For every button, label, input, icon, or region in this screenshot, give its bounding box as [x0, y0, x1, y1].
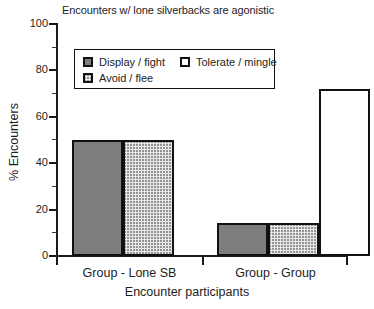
- legend-entry-display-fight: Display / fight: [83, 56, 165, 68]
- legend-entry-tolerate-mingle: Tolerate / mingle: [180, 56, 277, 68]
- legend-label-avoid-flee: Avoid / flee: [99, 72, 153, 84]
- bar-group1-avoid-flee: [123, 140, 174, 256]
- bar-chart-figure: Encounters w/ lone silverbacks are agoni…: [0, 0, 374, 309]
- y-tick-40: [49, 162, 57, 164]
- y-tick-label-0: 0: [8, 249, 48, 261]
- y-tick-label-20: 20: [8, 203, 48, 215]
- legend-swatch-display-fight-icon: [83, 57, 93, 67]
- legend-entry-avoid-flee: Avoid / flee: [83, 72, 153, 84]
- chart-title: Encounters w/ lone silverbacks are agoni…: [62, 4, 362, 16]
- legend-label-tolerate-mingle: Tolerate / mingle: [196, 56, 277, 68]
- legend-swatch-avoid-flee-icon: [83, 73, 93, 83]
- y-tick-80: [49, 69, 57, 71]
- y-tick-60: [49, 116, 57, 118]
- legend-label-display-fight: Display / fight: [99, 56, 165, 68]
- y-tick-label-80: 80: [8, 63, 48, 75]
- x-tick-middle: [202, 257, 204, 265]
- bar-group1-display-fight: [72, 140, 123, 256]
- x-tick-left: [56, 257, 58, 265]
- bar-group2-avoid-flee: [268, 223, 319, 256]
- y-tick-label-40: 40: [8, 156, 48, 168]
- y-tick-label-100: 100: [8, 17, 48, 29]
- bar-group2-display-fight: [217, 223, 268, 256]
- y-tick-100: [49, 23, 57, 25]
- x-tick-right: [346, 257, 348, 265]
- bar-group2-tolerate-mingle: [319, 89, 370, 256]
- y-tick-20: [49, 209, 57, 211]
- x-axis-title: Encounter participants: [0, 285, 374, 299]
- legend-swatch-tolerate-mingle-icon: [180, 57, 190, 67]
- x-tick-label-group-lone-sb: Group - Lone SB: [57, 266, 202, 280]
- y-axis-title: % Encounters: [7, 82, 21, 202]
- x-tick-label-group-group: Group - Group: [203, 266, 348, 280]
- chart-legend: Display / fight Tolerate / mingle Avoid …: [74, 49, 275, 89]
- y-tick-label-60: 60: [8, 110, 48, 122]
